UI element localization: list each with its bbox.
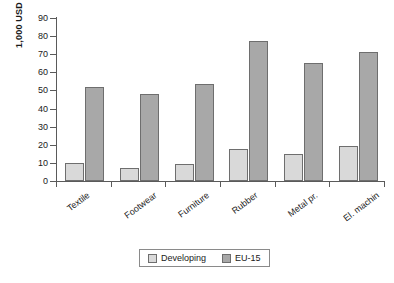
- x-axis-tick: [220, 181, 221, 187]
- bar: [229, 149, 248, 181]
- legend-swatch-icon: [222, 254, 231, 263]
- x-axis-tick: [275, 181, 276, 187]
- x-axis-category-label: Textile: [65, 190, 91, 213]
- x-axis-tick: [329, 181, 330, 187]
- legend-label: EU-15: [235, 253, 261, 263]
- bar: [175, 164, 194, 181]
- y-axis-tick-label: 10: [26, 159, 48, 168]
- legend-item-eu15: EU-15: [222, 253, 261, 263]
- bar: [339, 146, 358, 181]
- bar: [65, 163, 84, 181]
- bar: [140, 94, 159, 181]
- bar-group: [120, 18, 160, 181]
- legend-label: Developing: [161, 253, 206, 263]
- y-axis-tick-label: 70: [26, 50, 48, 59]
- chart-legend: Developing EU-15: [139, 249, 270, 267]
- bar: [195, 84, 214, 181]
- x-axis-tick: [384, 181, 385, 187]
- y-axis-tick-label: 80: [26, 32, 48, 41]
- x-axis-category-label: Furniture: [177, 190, 212, 220]
- bar: [304, 63, 323, 181]
- y-axis-title: 1,000 USD: [14, 0, 24, 80]
- bar: [120, 168, 139, 181]
- y-axis-tick-label: 60: [26, 68, 48, 77]
- plot-area: [56, 18, 384, 181]
- y-axis-tick-label: 90: [26, 14, 48, 23]
- bar-group: [229, 18, 269, 181]
- y-axis-tick-label: 40: [26, 105, 48, 114]
- x-axis-category-label: Footwear: [122, 190, 158, 221]
- bar-chart: 1,000 USD 0102030405060708090 TextileFoo…: [0, 0, 394, 283]
- y-axis-tick-label: 50: [26, 86, 48, 95]
- x-axis-category-label: Metal pr.: [286, 190, 320, 219]
- bar-group: [65, 18, 105, 181]
- bar: [249, 41, 268, 181]
- x-axis-category-label: El. machin: [342, 190, 382, 223]
- bar-group: [339, 18, 379, 181]
- bar: [85, 87, 104, 181]
- x-axis-tick: [165, 181, 166, 187]
- x-axis-tick: [111, 181, 112, 187]
- bar-group: [175, 18, 215, 181]
- y-axis-tick-label: 0: [26, 177, 48, 186]
- legend-swatch-icon: [148, 254, 157, 263]
- x-axis-tick: [56, 181, 57, 187]
- y-axis-tick-label: 20: [26, 141, 48, 150]
- legend-item-developing: Developing: [148, 253, 206, 263]
- bar-group: [284, 18, 324, 181]
- bar: [359, 52, 378, 181]
- x-axis-category-label: Rubber: [230, 190, 260, 216]
- y-axis-tick-label: 30: [26, 123, 48, 132]
- bar: [284, 154, 303, 181]
